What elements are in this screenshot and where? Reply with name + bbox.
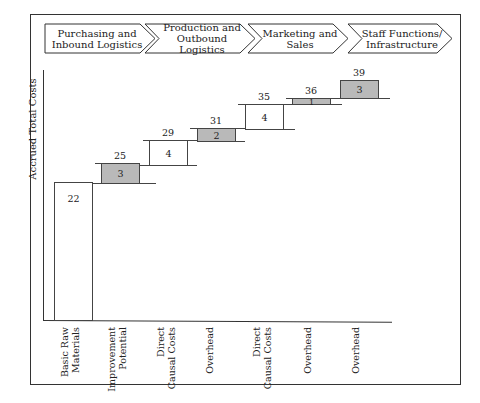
bar-overhead-marketing: 1 xyxy=(292,98,331,105)
x-label-line: Improvement xyxy=(106,327,117,397)
x-label-overhead-marketing: Overhead xyxy=(302,327,334,397)
x-label-line: Overhead xyxy=(350,327,361,397)
x-label-basic-raw-materials: Basic Raw Materials xyxy=(59,327,91,397)
stage-label: Staff Functions/ Infrastructure xyxy=(347,23,453,54)
x-label-line: Materials xyxy=(70,327,81,397)
x-label-line: Overhead xyxy=(302,327,313,397)
bar-total: 25 xyxy=(100,150,140,161)
stage-chevron-marketing: Marketing and Sales xyxy=(247,23,349,54)
bar-direct-causal-costs-marketing: 4 xyxy=(245,104,284,130)
bar-total: 31 xyxy=(196,115,236,126)
bar-value: 3 xyxy=(117,168,123,179)
x-label-line: Direct xyxy=(251,327,262,397)
x-label-line: Basic Raw xyxy=(59,327,70,397)
bar-value: 1 xyxy=(309,99,314,106)
stage-chevron-production: Production and Outbound Logistics xyxy=(144,23,256,54)
bar-overhead-staff: 3 xyxy=(340,80,379,99)
bar-value: 2 xyxy=(213,130,219,141)
x-label-line: Causal Costs xyxy=(262,327,273,397)
stage-chevron-purchasing: Purchasing and Inbound Logistics xyxy=(44,23,156,54)
y-axis xyxy=(43,70,44,321)
bar-total: 39 xyxy=(339,67,379,78)
x-label-line: Causal Costs xyxy=(166,327,177,397)
y-axis-label: Accrued Total Costs xyxy=(27,69,41,189)
stage-label: Purchasing and Inbound Logistics xyxy=(44,23,156,54)
connector-line xyxy=(283,129,295,130)
x-label-direct-causal-costs-marketing: Direct Causal Costs xyxy=(251,327,283,397)
bar-value: 3 xyxy=(356,84,362,95)
x-label-line: Overhead xyxy=(204,327,215,397)
x-label-line: Potential xyxy=(117,327,128,397)
x-label-overhead-staff: Overhead xyxy=(350,327,382,397)
stage-label: Marketing and Sales xyxy=(247,23,349,54)
bar-value: 4 xyxy=(261,112,267,123)
bar-value: 22 xyxy=(67,193,79,320)
bar-total: 36 xyxy=(291,85,331,96)
bar-total: 35 xyxy=(244,91,284,102)
connector-line xyxy=(235,141,245,142)
figure-frame xyxy=(30,14,461,385)
bar-overhead-production: 2 xyxy=(197,128,236,142)
bar-basic-raw-materials: 22 xyxy=(54,182,93,321)
bar-direct-causal-costs-production: 4 xyxy=(149,140,188,166)
x-label-line: Direct xyxy=(155,327,166,397)
bar-value: 4 xyxy=(165,148,171,159)
x-label-direct-causal-costs-production: Direct Causal Costs xyxy=(155,327,187,397)
connector-line xyxy=(378,98,390,99)
x-label-overhead-production: Overhead xyxy=(204,327,236,397)
stage-label: Production and Outbound Logistics xyxy=(144,23,256,54)
bar-improvement-potential: 3 xyxy=(101,163,140,184)
bar-total: 29 xyxy=(148,127,188,138)
x-label-improvement-potential: Improvement Potential xyxy=(106,327,138,397)
connector-line xyxy=(330,104,342,105)
stage-chevron-staff: Staff Functions/ Infrastructure xyxy=(347,23,453,54)
